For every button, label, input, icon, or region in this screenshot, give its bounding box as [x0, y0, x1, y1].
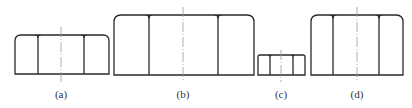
fillet-junction — [81, 35, 87, 38]
fillet-junction — [292, 55, 295, 57]
section-outline — [15, 35, 109, 74]
panel-d — [311, 7, 403, 82]
fillet-junction — [35, 35, 41, 38]
panel-label-b: (b) — [177, 88, 190, 101]
panel-label-c: (c) — [275, 88, 288, 101]
fillet-junction — [269, 55, 272, 57]
figure-canvas: (a) (b) (c) (d) — [0, 0, 412, 108]
section-outline — [258, 55, 305, 75]
panel-a — [15, 27, 109, 82]
panel-label-d: (d) — [351, 88, 364, 101]
panel-c — [258, 50, 305, 82]
panel-label-a: (a) — [55, 88, 68, 101]
panel-b — [114, 7, 254, 82]
section-outline — [114, 15, 254, 75]
